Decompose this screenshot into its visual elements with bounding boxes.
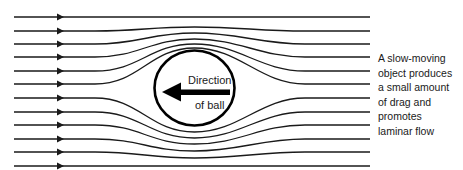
- flow-arrow-icon: [57, 81, 64, 88]
- streamline: [14, 125, 370, 144]
- flow-arrow-icon: [57, 41, 64, 48]
- caption-line: a small amount: [378, 80, 463, 95]
- ball-label-direction: Direction: [188, 74, 231, 86]
- streamline: [14, 139, 370, 151]
- flow-arrow-icon: [57, 28, 64, 35]
- ball-label-of-ball: of ball: [195, 99, 224, 111]
- flow-arrow-icon: [57, 149, 64, 156]
- flow-arrow-icon: [57, 109, 64, 116]
- caption-line: A slow-moving: [378, 51, 463, 66]
- streamline: [14, 152, 370, 158]
- ball: [155, 51, 235, 126]
- flow-arrow-icon: [57, 68, 64, 75]
- caption-line: promotes: [378, 109, 463, 124]
- flow-arrow-icon: [57, 163, 64, 170]
- caption-line: object produces: [378, 66, 463, 81]
- flow-arrow-icon: [57, 95, 64, 102]
- caption-line: of drag and: [378, 95, 463, 110]
- caption: A slow-moving object produces a small am…: [378, 51, 463, 139]
- streamline: [14, 27, 370, 31]
- flow-arrow-icon: [57, 136, 64, 143]
- flow-arrow-icon: [57, 122, 64, 129]
- caption-line: laminar flow: [378, 124, 463, 139]
- flow-arrow-icon: [57, 54, 64, 61]
- flow-arrow-icon: [57, 14, 64, 21]
